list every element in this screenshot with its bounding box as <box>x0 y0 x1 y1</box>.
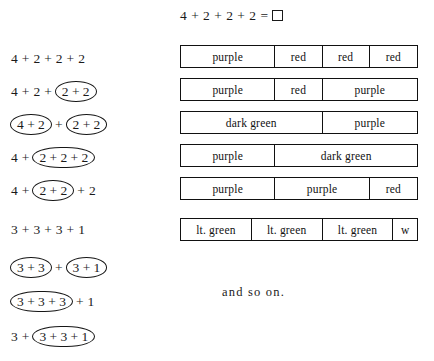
plus-sign: + <box>21 223 31 237</box>
rod-cell[interactable]: red <box>323 46 370 67</box>
rod-cell[interactable]: w <box>393 219 417 240</box>
term: 4 <box>10 85 19 99</box>
plus-sign: + <box>66 223 76 237</box>
title-equation-text: 4 + 2 + 2 + 2 = <box>180 8 269 23</box>
grouping-oval: 3 + 1 <box>66 261 108 275</box>
expression-row: 4+2 + 2 + 2 <box>10 151 95 165</box>
plus-sign: + <box>54 118 64 132</box>
rod-cell[interactable]: purple <box>323 79 417 100</box>
plus-sign: + <box>43 85 53 99</box>
grouping-oval: 2 + 2 <box>32 184 74 198</box>
plus-sign: + <box>43 52 53 66</box>
expression-row: 4+2+2 + 2 <box>10 85 97 99</box>
grouped-terms: 2 + 2 <box>62 84 90 99</box>
term: 1 <box>87 295 96 309</box>
term: 2 <box>77 52 86 66</box>
worksheet-page: 4 + 2 + 2 + 2 = 4+2+2+24+2+2 + 24 + 2+2 … <box>0 0 434 361</box>
grouping-oval: 3 + 3 <box>10 261 52 275</box>
answer-box[interactable] <box>272 10 283 21</box>
grouped-terms: 2 + 2 + 2 <box>39 150 88 165</box>
grouping-oval: 3 + 3 + 1 <box>32 330 95 344</box>
rod-cell[interactable]: red <box>275 79 322 100</box>
term: 2 <box>55 52 64 66</box>
term: 3 <box>32 223 41 237</box>
rod-bar: purpleredpurple <box>180 78 418 101</box>
grouping-oval: 4 + 2 <box>10 118 52 132</box>
term: 2 <box>32 85 41 99</box>
rod-bar: lt. greenlt. greenlt. greenw <box>180 218 418 241</box>
rod-cell[interactable]: purple <box>275 178 369 199</box>
rod-bar: purplepurplered <box>180 177 418 200</box>
rod-bar: purpledark green <box>180 144 418 167</box>
title-equation: 4 + 2 + 2 + 2 = <box>180 8 283 24</box>
plus-sign: + <box>21 52 31 66</box>
rod-cell[interactable]: red <box>370 178 417 199</box>
term: 4 <box>10 151 19 165</box>
rod-cell[interactable]: purple <box>181 178 275 199</box>
and-so-on-label: and so on. <box>222 285 285 300</box>
grouped-terms: 4 + 2 <box>17 117 45 132</box>
grouping-oval: 2 + 2 <box>66 118 108 132</box>
rod-cell[interactable]: lt. green <box>252 219 323 240</box>
expression-row: 3 + 3+3 + 1 <box>10 261 107 275</box>
grouped-terms: 3 + 3 + 1 <box>39 329 88 344</box>
rod-cell[interactable]: lt. green <box>181 219 252 240</box>
grouping-oval: 2 + 2 <box>55 85 97 99</box>
grouped-terms: 3 + 3 <box>17 260 45 275</box>
plus-sign: + <box>75 295 85 309</box>
term: 4 <box>10 52 19 66</box>
term: 2 <box>88 184 97 198</box>
term: 1 <box>77 223 86 237</box>
term: 4 <box>10 184 19 198</box>
plus-sign: + <box>21 184 31 198</box>
grouped-terms: 3 + 1 <box>73 260 101 275</box>
grouped-terms: 2 + 2 <box>73 117 101 132</box>
term: 2 <box>32 52 41 66</box>
rod-cell[interactable]: purple <box>181 79 275 100</box>
grouping-oval: 3 + 3 + 3 <box>10 295 73 309</box>
plus-sign: + <box>54 261 64 275</box>
rod-cell[interactable]: purple <box>181 46 275 67</box>
grouped-terms: 2 + 2 <box>39 183 67 198</box>
term: 3 <box>10 330 19 344</box>
plus-sign: + <box>21 151 31 165</box>
rod-cell[interactable]: purple <box>181 145 275 166</box>
plus-sign: + <box>66 52 76 66</box>
term: 3 <box>55 223 64 237</box>
rod-bar: purpleredredred <box>180 45 418 68</box>
expression-row: 4 + 2+2 + 2 <box>10 118 107 132</box>
rod-cell[interactable]: purple <box>323 112 417 133</box>
term: 3 <box>10 223 19 237</box>
rod-cell[interactable]: red <box>370 46 417 67</box>
expression-row: 4+2 + 2+2 <box>10 184 97 198</box>
rod-cell[interactable]: dark green <box>181 112 323 133</box>
expression-row: 3+3 + 3 + 1 <box>10 330 95 344</box>
expression-row: 3+3+3+1 <box>10 223 86 237</box>
plus-sign: + <box>76 184 86 198</box>
grouped-terms: 3 + 3 + 3 <box>17 294 66 309</box>
plus-sign: + <box>43 223 53 237</box>
rod-cell[interactable]: dark green <box>275 145 417 166</box>
rod-cell[interactable]: red <box>275 46 322 67</box>
expression-row: 4+2+2+2 <box>10 52 86 66</box>
rod-bar: dark greenpurple <box>180 111 418 134</box>
grouping-oval: 2 + 2 + 2 <box>32 151 95 165</box>
rod-cell[interactable]: lt. green <box>323 219 394 240</box>
expression-row: 3 + 3 + 3+1 <box>10 295 95 309</box>
plus-sign: + <box>21 85 31 99</box>
plus-sign: + <box>21 330 31 344</box>
